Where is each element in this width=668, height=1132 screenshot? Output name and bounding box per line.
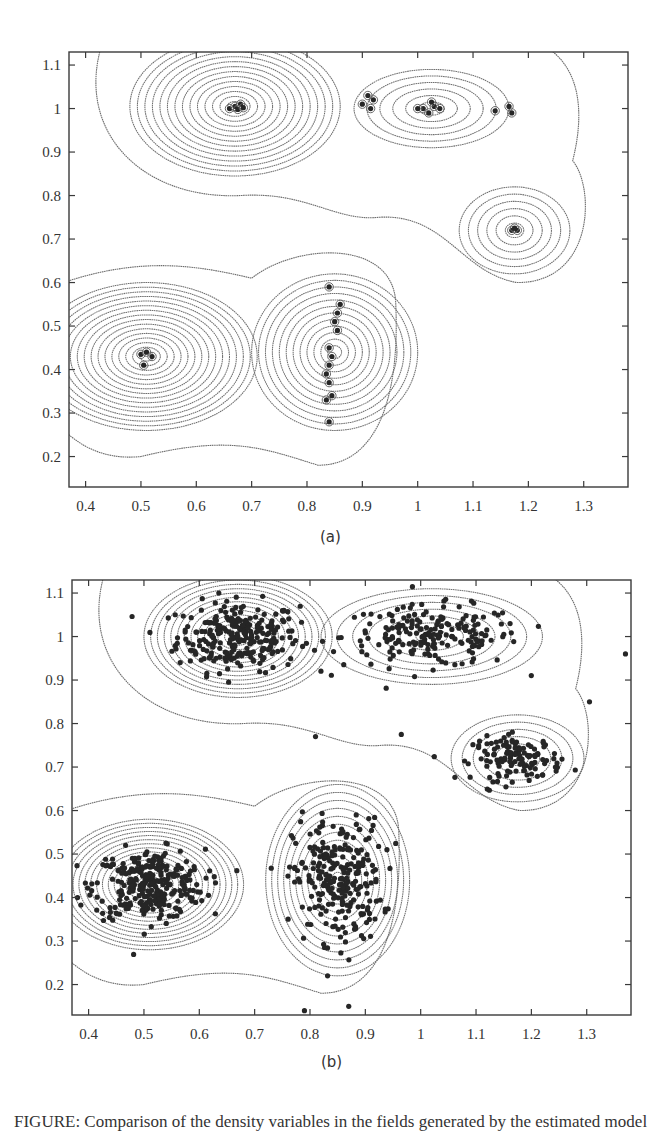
y-tick-label: 1 (57, 629, 65, 645)
y-tick-label: 0.7 (45, 759, 64, 775)
y-tick-label: 0.3 (45, 933, 64, 949)
x-tick-label: 1.2 (522, 1026, 541, 1042)
y-tick-label: 1.1 (45, 585, 64, 601)
x-tick-label: 0.8 (301, 1026, 320, 1042)
figure-caption: FIGURE: Comparison of the density variab… (14, 1112, 647, 1132)
y-tick-label: 0.6 (45, 803, 64, 819)
data-points (74, 584, 628, 1013)
contour-level (272, 792, 404, 967)
y-tick-label: 0.5 (45, 846, 64, 862)
x-tick-label: 0.9 (356, 1026, 375, 1042)
y-tick-label: 0.8 (45, 716, 64, 732)
contour-level (290, 816, 386, 944)
x-tick-label: 0.6 (190, 1026, 209, 1042)
axes: 0.40.50.60.70.80.911.11.21.30.20.30.40.5… (45, 580, 631, 1042)
y-tick-label: 0.9 (45, 672, 64, 688)
x-tick-label: 0.5 (135, 1026, 154, 1042)
x-tick-label: 1.1 (467, 1026, 486, 1042)
contour-lines (55, 571, 588, 993)
contour-level (266, 784, 410, 975)
x-tick-label: 1 (417, 1026, 425, 1042)
x-tick-label: 1.3 (577, 1026, 596, 1042)
x-tick-label: 0.7 (245, 1026, 264, 1042)
y-tick-label: 0.2 (45, 977, 64, 993)
x-tick-label: 0.4 (79, 1026, 98, 1042)
y-tick-label: 0.4 (45, 890, 64, 906)
panel-b-caption: (b) (321, 1053, 342, 1071)
